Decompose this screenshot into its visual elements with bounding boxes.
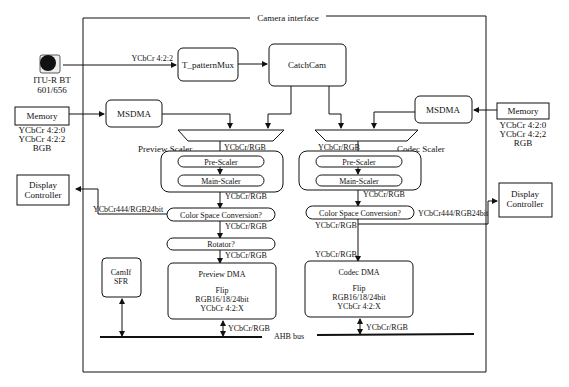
msdma-left-block: MSDMA: [106, 100, 162, 127]
codec-main-scaler-label: Main-Scaler: [339, 177, 379, 186]
display-left-label-1: Display: [29, 180, 57, 190]
camera-signal-label: YCbCr 4:2:2: [131, 54, 173, 63]
preview-dma-title: Preview DMA: [199, 270, 246, 279]
memory-left-label: Memory: [27, 111, 58, 121]
codec-dma-title: Codec DMA: [338, 268, 379, 277]
preview-dma-line-3: YCbCr 4:2:X: [200, 304, 244, 313]
preview-dma-line-2: RGB16/18/24bit: [195, 295, 249, 304]
msdma-right-to-codec-mux: [374, 112, 415, 128]
sfr-label: SFR: [114, 277, 129, 286]
t-pattern-mux-block: T_patternMux: [178, 48, 238, 81]
preview-pre-scaler-label: Pre-Scaler: [204, 158, 238, 167]
camif-sfr-block: CamIf SFR: [102, 258, 141, 297]
msdma-left-label: MSDMA: [117, 109, 152, 119]
display-right-signal: YCbCr444/RGB24bit: [418, 209, 489, 218]
display-right-label-1: Display: [511, 189, 539, 199]
preview-dma-line-1: Flip: [216, 286, 229, 295]
codec-signal-4: YCbCr/RGB: [315, 250, 357, 259]
codec-pre-scaler-label: Pre-Scaler: [342, 158, 376, 167]
display-controller-right: Display Controller: [499, 183, 552, 217]
t-pattern-mux-label: T_patternMux: [182, 60, 234, 70]
display-left-signal: YCbCr444/RGB24bit: [93, 205, 164, 214]
display-right-label-2: Controller: [507, 199, 544, 209]
memory-right-label: Memory: [508, 106, 539, 116]
codec-signal-5: YCbCr/RGB: [366, 323, 408, 332]
display-left-label-2: Controller: [25, 190, 62, 200]
catchcam-to-preview-mux: [268, 86, 291, 128]
camera-label-2: 601/656: [37, 85, 67, 95]
camera-sensor: ITU-R BT 601/656: [33, 55, 71, 95]
catchcam-to-codec-mux: [329, 86, 341, 128]
camera-interface-diagram: Camera interface ITU-R BT 601/656 YCbCr …: [0, 0, 569, 387]
msdma-right-label: MSDMA: [426, 105, 461, 115]
preview-signal-4: YCbCr/RGB: [225, 251, 267, 260]
codec-dma-line-2: RGB16/18/24bit: [332, 293, 386, 302]
codec-input-mux: [315, 130, 418, 141]
memory-left-format-3: BGB: [33, 143, 52, 153]
camif-label: CamIf: [111, 268, 132, 277]
preview-main-scaler-label: Main-Scaler: [201, 177, 241, 186]
codec-signal-2: YCbCr/RGB: [363, 190, 405, 199]
preview-signal-5: YCbCr/RGB: [228, 324, 270, 333]
codec-csc-label: Color Space Conversion?: [319, 209, 401, 218]
camera-lens-icon: [40, 55, 56, 71]
memory-left-block: Memory YCbCr 4:2:0 YCbCr 4:2:2 BGB: [15, 107, 69, 153]
preview-csc-label: Color Space Conversion?: [180, 211, 262, 220]
memory-right-block: Memory YCbCr 4:2:0 YCbCr 4:2;2 RGB: [497, 103, 549, 148]
catchcam-label: CatchCam: [288, 60, 326, 70]
preview-input-mux: [178, 130, 284, 141]
frame-title: Camera interface: [257, 13, 319, 23]
catchcam-block: CatchCam: [269, 44, 346, 86]
display-controller-left: Display Controller: [17, 175, 69, 205]
preview-rotator-label: Rotator?: [207, 240, 235, 249]
codec-dma-line-1: Flip: [353, 284, 366, 293]
camera-label-1: ITU-R BT: [33, 75, 71, 85]
memory-right-format-3: RGB: [514, 138, 533, 148]
preview-signal-3: YCbCr/RGB: [225, 222, 267, 231]
ahb-bus-label: AHB bus: [274, 332, 304, 341]
codec-signal-3: YCbCr/RGB: [315, 221, 357, 230]
codec-dma-line-3: YCbCr 4:2:X: [337, 302, 381, 311]
ahb-bus-right-segment: [317, 334, 474, 335]
msdma-left-to-preview-mux: [162, 114, 230, 128]
msdma-right-block: MSDMA: [415, 96, 472, 123]
preview-signal-2: YCbCr/RGB: [225, 192, 267, 201]
